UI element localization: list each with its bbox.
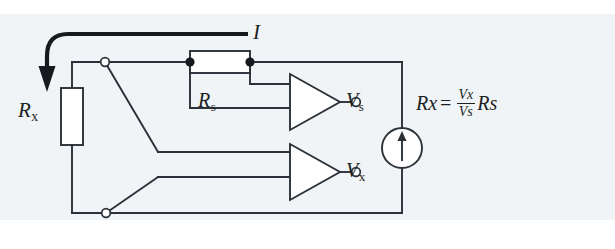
label-output-vx: Vx xyxy=(346,160,365,183)
amplifier-vx-body xyxy=(290,144,340,200)
label-output-vs: Vs xyxy=(346,90,364,113)
circuit-schematic xyxy=(0,0,615,249)
amplifier-vs-body xyxy=(290,74,340,130)
label-sense-resistor: Rs xyxy=(198,90,216,113)
label-unknown-resistor: Rx xyxy=(18,100,38,124)
wire-kelvin-bottom-lead xyxy=(106,177,158,213)
unknown-resistor-body xyxy=(61,88,83,145)
junction-rs-left xyxy=(185,57,194,66)
wire-rs-right-sense xyxy=(250,62,290,84)
kelvin-terminal-top xyxy=(101,58,110,67)
junction-rs-right xyxy=(245,57,254,66)
sense-resistor-body xyxy=(190,51,250,73)
label-current: I xyxy=(253,22,260,43)
resistance-formula: Rx = Vx Vs Rs xyxy=(416,88,497,120)
wire-kelvin-top-lead xyxy=(105,62,158,152)
kelvin-terminal-bottom xyxy=(102,209,111,218)
formula-fraction: Vx Vs xyxy=(456,88,475,120)
circuit-figure: Rx Rs I Vs Vx Rx = Vx Vs Rs xyxy=(0,0,615,249)
current-flow-arrow-head xyxy=(39,66,56,92)
